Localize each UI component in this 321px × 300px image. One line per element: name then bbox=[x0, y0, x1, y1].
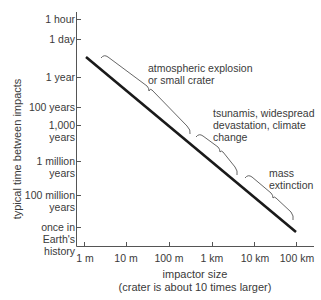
y-tick-1-hour: 1 hour bbox=[45, 13, 75, 25]
y-tick-text: years bbox=[25, 201, 75, 213]
annotation-line: change bbox=[213, 131, 315, 143]
annotation-line: extinction bbox=[269, 179, 313, 191]
y-tick-text: 100 million bbox=[25, 189, 75, 201]
y-tick-text: 1 day bbox=[49, 33, 75, 45]
y-axis-title: typical time between impacts bbox=[11, 74, 23, 224]
annotation-mass-extinction: mass extinction bbox=[269, 167, 313, 191]
annotation-line: atmospheric explosion bbox=[148, 62, 252, 74]
y-tick-1000-years: 1,000 years bbox=[49, 119, 75, 143]
y-tick-100-years: 100 years bbox=[29, 101, 75, 113]
y-tick-text: 1,000 bbox=[49, 119, 75, 131]
x-axis-title: impactor size (crater is about 10 times … bbox=[76, 268, 314, 294]
annotation-line: tsunamis, widespread bbox=[213, 107, 315, 119]
y-tick-text: 1 million bbox=[36, 155, 75, 167]
y-tick-1-million-years: 1 million years bbox=[36, 155, 75, 179]
annotation-line: or small crater bbox=[148, 74, 252, 86]
x-ticks bbox=[85, 242, 297, 247]
annotation-line: devastation, climate bbox=[213, 119, 315, 131]
y-tick-1-year: 1 year bbox=[46, 71, 75, 83]
x-axis-title-sub: (crater is about 10 times larger) bbox=[76, 281, 314, 294]
x-tick-100km: 100 km bbox=[272, 252, 321, 264]
x-axis-title-main: impactor size bbox=[76, 268, 314, 281]
annotation-line: mass bbox=[269, 167, 313, 179]
y-tick-text: once in bbox=[41, 221, 75, 233]
y-tick-text: Earth's bbox=[41, 233, 75, 245]
y-tick-100-million-years: 100 million years bbox=[25, 189, 75, 213]
y-tick-text: 1 year bbox=[46, 71, 75, 83]
annotation-tsunamis: tsunamis, widespread devastation, climat… bbox=[213, 107, 315, 143]
y-tick-text: years bbox=[36, 167, 75, 179]
y-tick-text: 1 hour bbox=[45, 13, 75, 25]
annotation-atmospheric-explosion: atmospheric explosion or small crater bbox=[148, 62, 252, 86]
y-ticks bbox=[77, 20, 82, 228]
y-tick-text: 100 years bbox=[29, 101, 75, 113]
y-tick-text: years bbox=[49, 131, 75, 143]
y-tick-1-day: 1 day bbox=[49, 33, 75, 45]
